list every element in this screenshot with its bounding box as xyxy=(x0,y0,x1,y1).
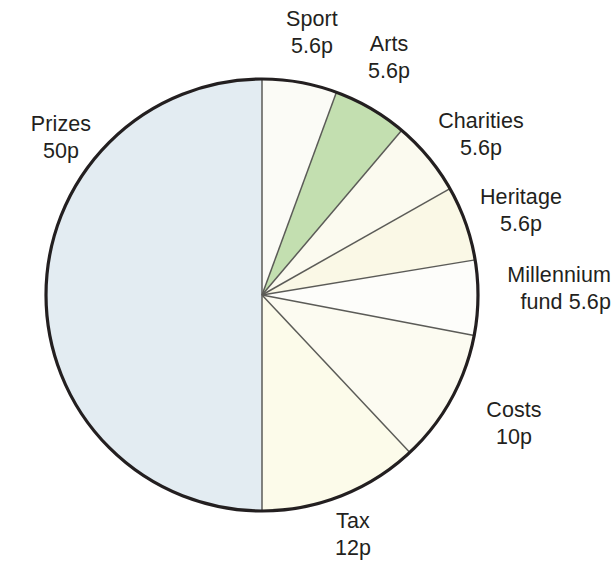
pie-label-charities-name: Charities xyxy=(411,108,551,135)
pie-label-heritage-value: 5.6p xyxy=(452,211,590,238)
pie-label-tax-name: Tax xyxy=(298,508,408,535)
pie-label-heritage-name: Heritage xyxy=(452,184,590,211)
pie-label-prizes-name: Prizes xyxy=(2,111,120,138)
pie-label-tax-value: 12p xyxy=(298,535,408,562)
pie-label-prizes-value: 50p xyxy=(2,138,120,165)
pie-label-millennium-fund: Millennium fund 5.6p xyxy=(423,262,611,316)
pie-label-heritage: Heritage 5.6p xyxy=(452,184,590,238)
pie-label-charities-value: 5.6p xyxy=(411,135,551,162)
pie-label-costs-value: 10p xyxy=(455,424,573,451)
pie-label-arts-value: 5.6p xyxy=(334,58,444,85)
pie-label-prizes: Prizes 50p xyxy=(2,111,120,165)
pie-label-costs: Costs 10p xyxy=(455,397,573,451)
pie-label-arts-name: Arts xyxy=(334,31,444,58)
pie-label-millennium-fund-value: fund 5.6p xyxy=(423,289,611,316)
pie-label-charities: Charities 5.6p xyxy=(411,108,551,162)
pie-chart-page: Sport 5.6p Arts 5.6p Charities 5.6p Heri… xyxy=(0,0,613,562)
pie-label-costs-name: Costs xyxy=(455,397,573,424)
pie-label-arts: Arts 5.6p xyxy=(334,31,444,85)
pie-label-millennium-fund-name: Millennium xyxy=(423,262,611,289)
pie-label-sport-name: Sport xyxy=(247,6,377,33)
pie-label-tax: Tax 12p xyxy=(298,508,408,562)
